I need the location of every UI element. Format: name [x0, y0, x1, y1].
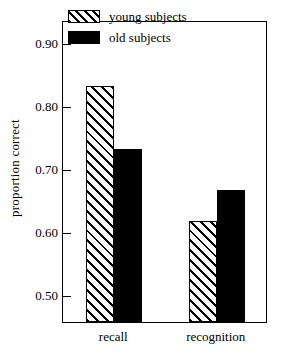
hatched-swatch: [68, 10, 100, 23]
solid-black-swatch: [68, 31, 100, 44]
bar-recognition-young: [189, 221, 217, 322]
y-tick-mark: [63, 170, 71, 171]
bar-chart-figure: proportion correct 0.900.800.700.600.50 …: [0, 0, 285, 362]
bar-recall-old: [114, 149, 142, 322]
y-tick-label: 0.80: [18, 99, 58, 112]
y-tick-mark: [63, 233, 71, 234]
x-category-label-recall: recall: [99, 329, 128, 345]
y-tick-mark: [63, 107, 71, 108]
y-tick-label: 0.60: [18, 225, 58, 238]
chart-legend: young subjectsold subjects: [68, 6, 203, 48]
legend-item-old: old subjects: [68, 27, 203, 48]
y-tick-mark: [63, 296, 71, 297]
y-tick-label: 0.90: [18, 37, 58, 50]
y-tick-label: 0.50: [18, 288, 58, 301]
legend-item-young: young subjects: [68, 6, 203, 27]
legend-label: young subjects: [109, 9, 187, 25]
y-tick-label: 0.70: [18, 162, 58, 175]
legend-label: old subjects: [109, 30, 171, 46]
x-axis-category-labels: recallrecognition: [62, 329, 267, 353]
y-axis-tick-labels: 0.900.800.700.600.50: [14, 0, 58, 362]
x-category-label-recognition: recognition: [186, 329, 245, 345]
bar-recall-young: [86, 86, 114, 322]
plot-area: [62, 21, 267, 323]
bar-recognition-old: [217, 190, 245, 322]
